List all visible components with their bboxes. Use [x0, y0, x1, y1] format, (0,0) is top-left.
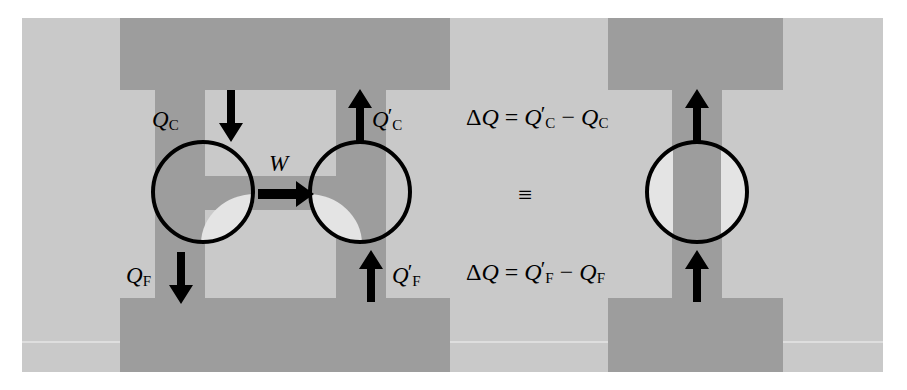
- work-right-arrow-icon: [258, 181, 314, 207]
- right-hot-reservoir-bar: [608, 18, 783, 90]
- equation-delta-q-cold: ΔQ = Q′C − QC: [466, 104, 609, 131]
- right-bottom-up-arrow-icon: [682, 250, 712, 302]
- equation-delta-q-hot: ΔQ = Q′F − QF: [466, 259, 605, 286]
- right-net-circle: [645, 140, 749, 244]
- label-work: W: [269, 152, 288, 175]
- qc-prime-up-arrow-icon: [345, 89, 375, 141]
- right-top-up-arrow-icon: [682, 89, 712, 141]
- qf-prime-up-arrow-icon: [356, 250, 386, 302]
- left-engine-circle: [151, 140, 255, 244]
- label-qf: QF: [126, 264, 151, 289]
- right-cold-reservoir-bar: [608, 298, 783, 372]
- left-hot-reservoir-bar: [120, 18, 450, 90]
- qf-down-arrow-icon: [166, 252, 196, 304]
- label-qc: QC: [152, 108, 179, 133]
- equation-identity-symbol: ≡: [518, 182, 532, 207]
- label-qc-prime: Q′C: [372, 106, 402, 133]
- middle-pump-circle: [308, 140, 412, 244]
- thermodynamics-diagram: QC Q′C QF Q′F W ΔQ = Q′C − QC ≡ ΔQ = Q′F…: [0, 0, 907, 390]
- left-cold-reservoir-bar: [120, 298, 450, 372]
- label-qf-prime: Q′F: [392, 262, 421, 289]
- qc-down-arrow-icon: [216, 90, 246, 142]
